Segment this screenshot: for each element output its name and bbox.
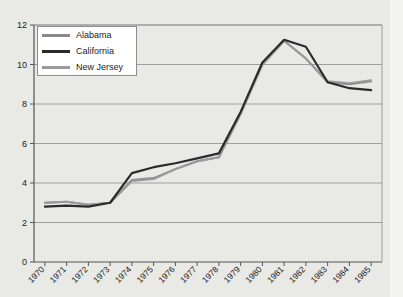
legend-label-alabama: Alabama xyxy=(76,30,112,40)
y-tick-label: 0 xyxy=(22,257,27,267)
legend-item-california: California xyxy=(38,43,136,59)
x-tick-label: 1980 xyxy=(243,264,264,285)
y-tick-label: 6 xyxy=(22,139,27,149)
x-tick-label: 1972 xyxy=(69,264,90,285)
x-tick-label: 1977 xyxy=(178,264,199,285)
legend-label-california: California xyxy=(76,46,114,56)
legend-swatch-new-jersey xyxy=(42,66,70,69)
x-tick-label: 1971 xyxy=(48,264,69,285)
legend-swatch-california xyxy=(42,50,70,53)
legend-item-new-jersey: New Jersey xyxy=(38,59,136,75)
legend-label-new-jersey: New Jersey xyxy=(76,62,123,72)
y-tick-label: 2 xyxy=(22,218,27,228)
x-tick-label: 1983 xyxy=(309,264,330,285)
x-tick-label: 1978 xyxy=(200,264,221,285)
x-tick-label: 1984 xyxy=(330,264,351,285)
x-axis-labels-group: 1970197119721973197419751976197719781979… xyxy=(26,264,373,285)
legend-item-alabama: Alabama xyxy=(38,27,136,43)
x-tick-label: 1975 xyxy=(135,264,156,285)
y-axis-labels-group: 024681012 xyxy=(17,20,27,267)
y-tick-label: 10 xyxy=(17,60,27,70)
y-tick-label: 12 xyxy=(17,20,27,30)
x-tick-label: 1985 xyxy=(352,264,373,285)
legend-swatch-alabama xyxy=(42,34,70,37)
y-tick-label: 8 xyxy=(22,99,27,109)
x-tick-label: 1982 xyxy=(287,264,308,285)
y-tick-label: 4 xyxy=(22,178,27,188)
x-tick-label: 1973 xyxy=(91,264,112,285)
x-tick-label: 1976 xyxy=(156,264,177,285)
chart-legend: Alabama California New Jersey xyxy=(37,26,137,76)
x-tick-label: 1981 xyxy=(265,264,286,285)
x-tick-label: 1974 xyxy=(113,264,134,285)
page-edge-strip xyxy=(390,0,403,297)
x-tick-label: 1979 xyxy=(222,264,243,285)
screenshot-root: 024681012 197019711972197319741975197619… xyxy=(0,0,403,297)
line-chart-figure: 024681012 197019711972197319741975197619… xyxy=(0,0,390,297)
x-tick-label: 1970 xyxy=(26,264,47,285)
